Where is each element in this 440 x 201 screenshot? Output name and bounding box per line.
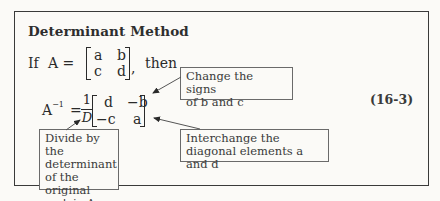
callout-arrows <box>0 0 440 201</box>
arrow-interchange <box>154 118 200 129</box>
arrow-change-signs <box>153 77 181 93</box>
arrow-divide <box>66 120 80 130</box>
